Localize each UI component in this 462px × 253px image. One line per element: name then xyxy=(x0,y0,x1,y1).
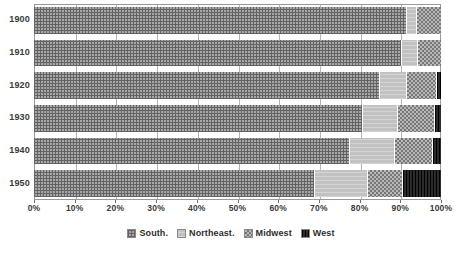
y-axis-label-1910: 1910 xyxy=(0,47,30,57)
legend-item-south[interactable]: South. xyxy=(127,228,168,238)
bar-segment[interactable] xyxy=(34,105,363,132)
y-axis-label-1940: 1940 xyxy=(0,145,30,155)
bar-segment[interactable] xyxy=(435,105,441,132)
x-axis-label-100%: 100% xyxy=(430,203,453,213)
bar-segment[interactable] xyxy=(34,7,407,34)
bar-segment[interactable] xyxy=(403,170,441,197)
legend-swatch-icon xyxy=(244,229,253,238)
bar-segment[interactable] xyxy=(402,40,418,67)
bar-segment[interactable] xyxy=(433,138,441,165)
y-axis-label-1950: 1950 xyxy=(0,178,30,188)
bar-segment[interactable] xyxy=(368,170,403,197)
x-axis-label-40%: 40% xyxy=(188,203,206,213)
stacked-bar-chart: 190019101920193019401950 0%10%20%30%40%5… xyxy=(0,0,462,253)
x-axis-label-70%: 70% xyxy=(310,203,328,213)
bar-segment[interactable] xyxy=(34,40,402,67)
bar-segment[interactable] xyxy=(350,138,395,165)
x-axis: 0%10%20%30%40%50%60%70%80%90%100% xyxy=(34,203,441,217)
x-axis-label-90%: 90% xyxy=(391,203,409,213)
y-axis-label-1930: 1930 xyxy=(0,112,30,122)
bar-row[interactable] xyxy=(34,170,441,197)
bar-row[interactable] xyxy=(34,7,441,34)
bar-segment[interactable] xyxy=(363,105,398,132)
legend-label: Midwest xyxy=(256,228,292,238)
bar-segment[interactable] xyxy=(407,7,417,34)
bar-segment[interactable] xyxy=(417,7,441,34)
x-axis-label-30%: 30% xyxy=(147,203,165,213)
bar-segment[interactable] xyxy=(34,72,380,99)
y-axis-label-1900: 1900 xyxy=(0,14,30,24)
legend-item-northeast[interactable]: Northeast. xyxy=(177,228,235,238)
bar-segment[interactable] xyxy=(437,72,441,99)
y-axis-label-1920: 1920 xyxy=(0,80,30,90)
bar-segment[interactable] xyxy=(398,105,435,132)
bars-layer xyxy=(34,4,441,200)
x-axis-label-80%: 80% xyxy=(351,203,369,213)
x-axis-label-50%: 50% xyxy=(229,203,247,213)
bar-row[interactable] xyxy=(34,105,441,132)
chart-legend: South.Northeast.MidwestWest xyxy=(0,228,462,238)
x-axis-label-20%: 20% xyxy=(107,203,125,213)
bar-segment[interactable] xyxy=(380,72,407,99)
x-axis-label-60%: 60% xyxy=(269,203,287,213)
bar-segment[interactable] xyxy=(315,170,368,197)
legend-swatch-icon xyxy=(127,229,136,238)
legend-label: Northeast. xyxy=(189,228,235,238)
bar-segment[interactable] xyxy=(34,138,350,165)
bar-segment[interactable] xyxy=(418,40,441,67)
bar-row[interactable] xyxy=(34,138,441,165)
legend-item-west[interactable]: West xyxy=(301,228,335,238)
bar-segment[interactable] xyxy=(395,138,433,165)
legend-swatch-icon xyxy=(177,229,186,238)
x-axis-label-10%: 10% xyxy=(66,203,84,213)
legend-label: West xyxy=(313,228,335,238)
bar-row[interactable] xyxy=(34,40,441,67)
legend-swatch-icon xyxy=(301,229,310,238)
x-axis-label-0%: 0% xyxy=(28,203,41,213)
legend-label: South. xyxy=(139,228,168,238)
bar-row[interactable] xyxy=(34,72,441,99)
legend-item-midwest[interactable]: Midwest xyxy=(244,228,292,238)
bar-segment[interactable] xyxy=(34,170,315,197)
bar-segment[interactable] xyxy=(407,72,437,99)
